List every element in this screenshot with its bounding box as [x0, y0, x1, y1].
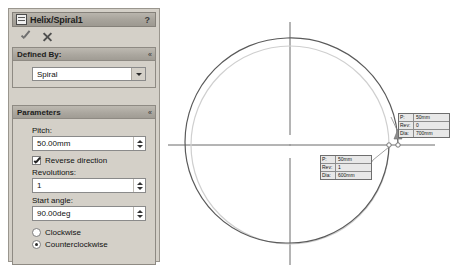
page-title: Helix/Spiral1	[30, 15, 145, 25]
center-point	[289, 144, 291, 146]
direction-radio-group: Clockwise Counterclockwise	[32, 228, 150, 249]
pitch-label: Pitch:	[32, 126, 150, 135]
start-angle-stepper[interactable]	[133, 207, 145, 220]
counterclockwise-radio[interactable]	[32, 240, 41, 249]
callout-value-pitch: 50mm	[414, 114, 449, 121]
property-manager-titlebar: Helix/Spiral1 ?	[12, 12, 156, 27]
parameters-group-body: Pitch: 50.00mm Reverse direction Revolut…	[13, 119, 155, 257]
defined-by-select[interactable]: Spiral	[32, 67, 146, 81]
defined-by-group-header[interactable]: Defined By: «	[13, 48, 155, 61]
radio-row-counterclockwise[interactable]: Counterclockwise	[32, 240, 150, 249]
callout-key-dia: Dia:	[321, 172, 336, 179]
callout-row: P: 50mm	[321, 156, 371, 164]
clockwise-radio[interactable]	[32, 228, 41, 237]
helix-spiral-icon	[16, 14, 27, 25]
parameters-group-header[interactable]: Parameters «	[13, 106, 155, 119]
revolutions-value: 1	[33, 181, 133, 190]
chevron-collapse-icon[interactable]: «	[148, 51, 152, 58]
callout-key-pitch: P:	[399, 114, 414, 121]
callout-value-dia: 600mm	[336, 172, 371, 179]
callout-inner[interactable]: P: 50mm Rev: 1 Dia: 600mm	[320, 155, 372, 180]
chevron-collapse-icon[interactable]: «	[148, 109, 152, 116]
callout-row: Rev: 0	[399, 122, 449, 130]
parameters-group: Parameters « Pitch: 50.00mm Reverse dire…	[12, 105, 156, 265]
callout-row: P: 50mm	[399, 114, 449, 122]
start-angle-label: Start angle:	[32, 196, 150, 205]
reverse-direction-label: Reverse direction	[45, 156, 107, 165]
spiral-outer-endpoint[interactable]	[396, 143, 400, 147]
start-angle-value: 90.00deg	[33, 209, 133, 218]
stepper-up-icon[interactable]	[137, 210, 143, 213]
helix-spiral-property-manager: Helix/Spiral1 ? Defined By: « Spiral Par…	[8, 8, 160, 262]
pitch-input[interactable]: 50.00mm	[32, 136, 146, 151]
chevron-down-icon[interactable]	[131, 68, 145, 80]
clockwise-label: Clockwise	[45, 228, 81, 237]
callout-row: Rev: 1	[321, 164, 371, 172]
pitch-value: 50.00mm	[33, 139, 133, 148]
spiral-sketch-graphic	[160, 0, 452, 277]
defined-by-select-value: Spiral	[33, 70, 131, 79]
pitch-stepper[interactable]	[133, 137, 145, 150]
callout-row: Dia: 700mm	[399, 130, 449, 137]
reverse-direction-row[interactable]: Reverse direction	[32, 156, 150, 165]
revolutions-label: Revolutions:	[32, 168, 150, 177]
callout-key-rev: Rev:	[321, 164, 336, 171]
callout-value-rev: 1	[336, 164, 371, 171]
callout-value-pitch: 50mm	[336, 156, 371, 163]
callout-key-rev: Rev:	[399, 122, 414, 129]
defined-by-group-title: Defined By:	[17, 50, 61, 59]
stepper-down-icon[interactable]	[137, 145, 143, 148]
callout-outer[interactable]: P: 50mm Rev: 0 Dia: 700mm	[398, 113, 450, 138]
parameters-group-title: Parameters	[17, 108, 61, 117]
callout-key-pitch: P:	[321, 156, 336, 163]
spiral-inner-endpoint[interactable]	[387, 143, 391, 147]
accept-check-icon[interactable]	[20, 31, 32, 43]
revolutions-input[interactable]: 1	[32, 178, 146, 193]
reverse-direction-checkbox[interactable]	[32, 156, 41, 165]
callout-row: Dia: 600mm	[321, 172, 371, 179]
counterclockwise-label: Counterclockwise	[45, 240, 108, 249]
revolutions-stepper[interactable]	[133, 179, 145, 192]
stepper-down-icon[interactable]	[137, 215, 143, 218]
stepper-up-icon[interactable]	[137, 140, 143, 143]
stepper-up-icon[interactable]	[137, 182, 143, 185]
cancel-x-icon[interactable]	[42, 31, 54, 43]
start-angle-input[interactable]: 90.00deg	[32, 206, 146, 221]
radio-row-clockwise[interactable]: Clockwise	[32, 228, 150, 237]
callout-inner-leader	[373, 147, 389, 160]
defined-by-group-body: Spiral	[13, 61, 155, 87]
callout-value-rev: 0	[414, 122, 449, 129]
property-manager-actions	[12, 29, 164, 45]
defined-by-group: Defined By: « Spiral	[12, 47, 156, 88]
help-button[interactable]: ?	[145, 15, 153, 25]
stepper-down-icon[interactable]	[137, 187, 143, 190]
cad-viewport[interactable]: P: 50mm Rev: 0 Dia: 700mm P: 50mm Rev: 1…	[160, 0, 452, 277]
callout-value-dia: 700mm	[414, 130, 449, 137]
callout-key-dia: Dia:	[399, 130, 414, 137]
